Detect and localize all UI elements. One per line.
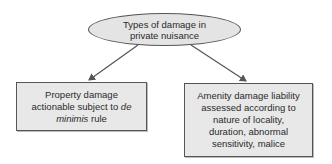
amenity-text-line-5: sensitivity, malice bbox=[197, 138, 299, 150]
root-node-types-of-damage: Types of damage in private nuisance bbox=[88, 13, 241, 46]
property-text-line-2-italic: de bbox=[121, 101, 132, 112]
property-damage-node: Property damage actionable subject to de… bbox=[16, 82, 147, 131]
arrow-to-property-damage bbox=[89, 45, 138, 80]
property-text-line-3: minimis rule bbox=[32, 113, 132, 125]
amenity-damage-node: Amenity damage liability assessed accord… bbox=[184, 83, 313, 157]
amenity-text-line-2: assessed according to bbox=[197, 102, 299, 114]
property-text-line-3-italic: minimis bbox=[56, 113, 88, 124]
amenity-text-line-4: duration, abnormal bbox=[197, 126, 299, 138]
property-text-line-3-plain: rule bbox=[88, 113, 106, 124]
root-text-line-1: Types of damage in bbox=[123, 19, 206, 30]
property-text-line-2: actionable subject to de bbox=[32, 101, 132, 113]
amenity-text-line-1: Amenity damage liability bbox=[197, 90, 299, 102]
amenity-text-line-3: nature of locality, bbox=[197, 114, 299, 126]
property-text-line-2-plain: actionable subject to bbox=[32, 101, 121, 112]
root-text-line-2: private nuisance bbox=[123, 30, 206, 41]
arrow-to-amenity-damage bbox=[191, 45, 246, 81]
property-text-line-1: Property damage bbox=[32, 89, 132, 101]
